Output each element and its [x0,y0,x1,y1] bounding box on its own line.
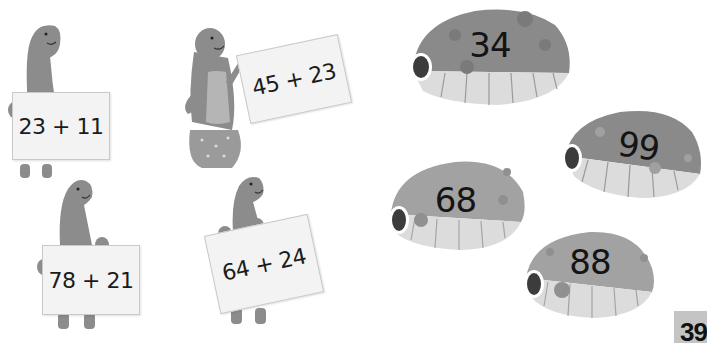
expression-text: 45 + 23 [250,58,338,100]
shell-answer-2[interactable]: 99 [560,102,705,202]
math-sign: 23 + 11 [12,92,110,160]
expression-text: 78 + 21 [49,268,134,293]
shell-answer-1[interactable]: 34 [405,5,575,110]
dinosaur-card-3[interactable]: 78 + 21 [36,175,146,335]
expression-text: 23 + 11 [19,114,104,139]
expression-text: 64 + 24 [220,243,308,285]
dinosaur-card-2[interactable]: 45 + 23 [172,22,362,172]
dinosaur-card-1[interactable]: 23 + 11 [0,12,120,182]
shell-answer-4[interactable]: 88 [520,222,660,322]
page-number: 39 [674,311,707,343]
dinosaur-card-4[interactable]: 64 + 24 [205,172,325,332]
shell-answer-3[interactable]: 68 [385,152,530,252]
shell-number: 68 [383,180,528,220]
shell-number: 34 [405,25,575,65]
shell-number: 88 [520,242,660,282]
math-sign: 78 + 21 [42,245,140,315]
